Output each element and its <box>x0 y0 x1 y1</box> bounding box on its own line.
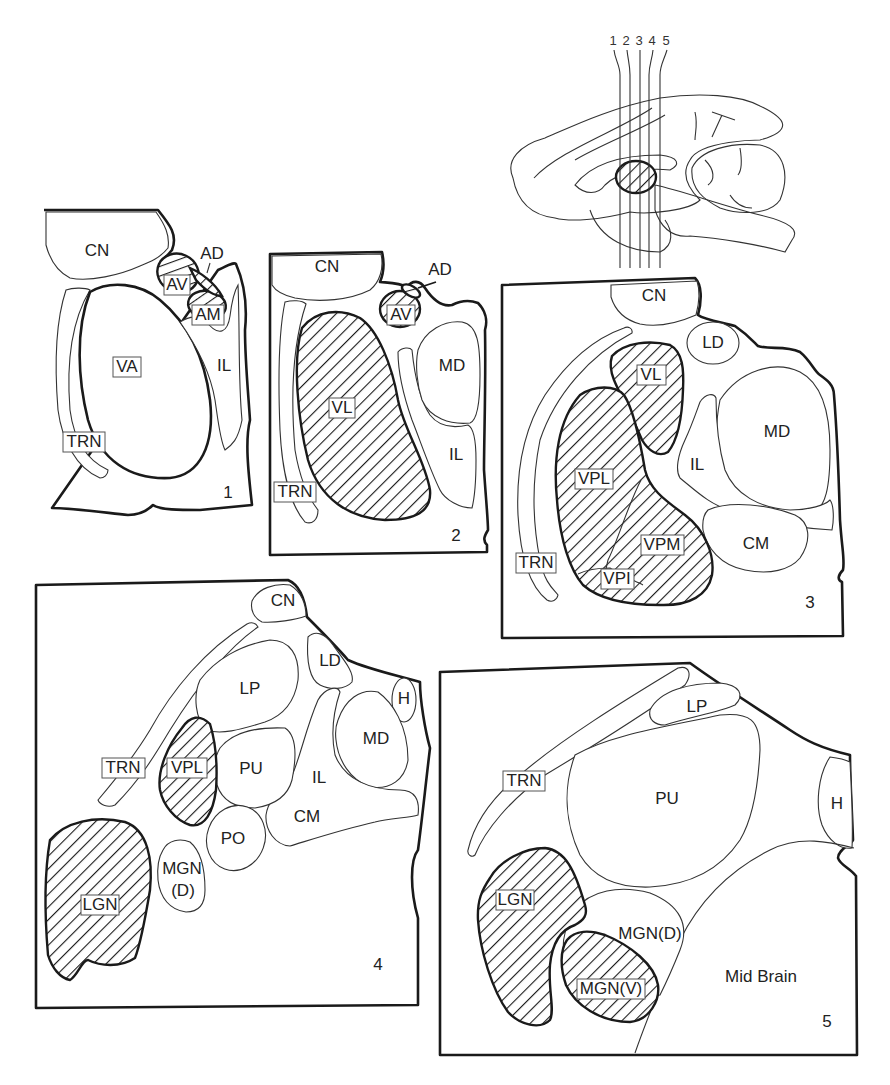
label-md: MD <box>363 729 389 748</box>
label-av: AV <box>390 305 412 324</box>
label-cm: CM <box>294 807 320 826</box>
label-va: VA <box>116 357 138 376</box>
label-ad: AD <box>200 244 224 263</box>
label-am: AM <box>195 305 221 324</box>
section-panel-3: CN LD VL MD IL VPL VPM CM TRN VPI 3 <box>502 278 844 638</box>
label-md: MD <box>764 422 790 441</box>
section-panel-4: CN LD LP H MD TRN VPL PU IL CM PO MGN (D… <box>36 580 430 1008</box>
panel-number: 3 <box>805 593 814 612</box>
label-h: H <box>831 794 843 813</box>
label-mgn-d: MGN(D) <box>618 924 681 943</box>
label-lgn: LGN <box>83 895 118 914</box>
panel-number: 4 <box>373 955 382 974</box>
label-mgn-v: MGN(V) <box>580 979 642 998</box>
label-lp: LP <box>240 679 261 698</box>
label-trn: TRN <box>278 482 313 501</box>
section-number-1: 1 <box>609 33 616 48</box>
cerebellum <box>692 144 785 212</box>
cerebrum-outline <box>511 95 783 220</box>
label-cm: CM <box>743 534 769 553</box>
sulcus <box>695 112 696 140</box>
panel-number: 1 <box>223 483 232 502</box>
section-panel-1: CN AD AV AM VA IL TRN 1 <box>44 210 252 515</box>
label-vpm: VPM <box>644 535 681 554</box>
label-trn: TRN <box>67 432 102 451</box>
label-cn: CN <box>271 591 296 610</box>
label-vpl: VPL <box>578 469 610 488</box>
section-panel-5: LP TRN PU H LGN MGN(D) Mid Brain MGN(V) … <box>440 663 857 1055</box>
label-trn: TRN <box>519 553 554 572</box>
panel-number: 5 <box>822 1012 831 1031</box>
cerebellum-folia <box>705 148 752 208</box>
label-il: IL <box>449 445 463 464</box>
label-il: IL <box>217 356 231 375</box>
brainstem <box>655 185 795 252</box>
sagittal-brain-diagram: 1 2 3 4 5 <box>511 33 795 268</box>
section-number-4: 4 <box>648 33 655 48</box>
thalamus-highlight <box>616 161 656 193</box>
label-trn: TRN <box>106 758 141 777</box>
label-mgn: MGN <box>162 859 202 878</box>
label-il: IL <box>690 455 704 474</box>
thalamus-sections-figure: 1 2 3 4 5 CN AD AV AM VA IL TRN 1 <box>0 0 890 1085</box>
label-lgn: LGN <box>498 890 533 909</box>
label-ld: LD <box>702 333 724 352</box>
label-cn: CN <box>315 257 340 276</box>
label-vl: VL <box>332 398 353 417</box>
label-cn: CN <box>85 241 110 260</box>
section-number-3: 3 <box>635 33 642 48</box>
label-trn: TRN <box>507 771 542 790</box>
label-pu: PU <box>655 789 679 808</box>
panel-number: 2 <box>451 526 460 545</box>
label-ad: AD <box>428 260 452 279</box>
label-ld: LD <box>319 651 341 670</box>
label-lp: LP <box>687 697 708 716</box>
label-mgn-d: (D) <box>171 881 195 900</box>
label-il: IL <box>312 768 326 787</box>
label-mid-brain: Mid Brain <box>725 967 797 986</box>
sulcus-t <box>712 112 735 137</box>
label-md: MD <box>439 356 465 375</box>
section-number-2: 2 <box>622 33 629 48</box>
label-vpi: VPI <box>603 569 630 588</box>
section-number-5: 5 <box>662 33 669 48</box>
ad-pointer <box>207 263 210 273</box>
section-panel-2: CN AD AV VL MD IL TRN 2 <box>270 252 488 555</box>
label-po: PO <box>221 829 246 848</box>
label-cn: CN <box>642 286 667 305</box>
label-vl: VL <box>641 365 662 384</box>
label-vpl: VPL <box>171 758 203 777</box>
label-av: AV <box>166 275 188 294</box>
label-h: H <box>398 689 410 708</box>
label-pu: PU <box>239 759 263 778</box>
